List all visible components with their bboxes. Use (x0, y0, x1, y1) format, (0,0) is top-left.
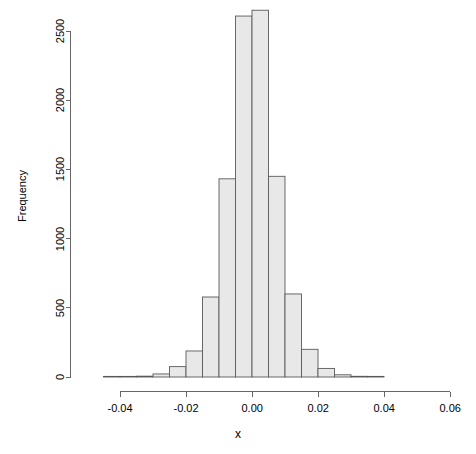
x-tick-label: -0.04 (108, 402, 133, 414)
y-tick-label: 500 (54, 299, 66, 317)
histogram-bar (104, 376, 121, 377)
y-tick-label: 2500 (54, 19, 66, 43)
x-tick-label: 0.04 (374, 402, 395, 414)
histogram-bar (219, 179, 236, 377)
histogram-plot: Frequency x 05001000150020002500 -0.04-0… (0, 0, 476, 454)
histogram-bar (318, 368, 335, 377)
histogram-bar (335, 375, 352, 377)
x-axis (120, 392, 450, 397)
histogram-bar (186, 351, 203, 377)
histogram-bars (104, 10, 385, 377)
y-axis (66, 31, 71, 377)
histogram-bar (120, 376, 137, 377)
histogram-bar (285, 294, 302, 377)
histogram-canvas (0, 0, 476, 454)
x-tick-label: 0.00 (242, 402, 263, 414)
x-tick-label: 0.02 (308, 402, 329, 414)
x-tick-label: -0.02 (174, 402, 199, 414)
histogram-bar (153, 374, 170, 377)
y-tick-label: 1500 (54, 157, 66, 181)
y-tick-label: 2000 (54, 88, 66, 112)
histogram-bar (137, 376, 154, 377)
histogram-bar (269, 176, 286, 377)
histogram-bar (351, 376, 368, 377)
histogram-bar (170, 367, 187, 377)
x-tick-label: 0.06 (440, 402, 461, 414)
histogram-bar (368, 376, 385, 377)
histogram-bar (203, 297, 220, 377)
histogram-bar (302, 349, 319, 377)
y-tick-label: 0 (54, 374, 66, 380)
histogram-bar (252, 10, 269, 377)
y-tick-label: 1000 (54, 226, 66, 250)
histogram-bar (236, 16, 253, 377)
